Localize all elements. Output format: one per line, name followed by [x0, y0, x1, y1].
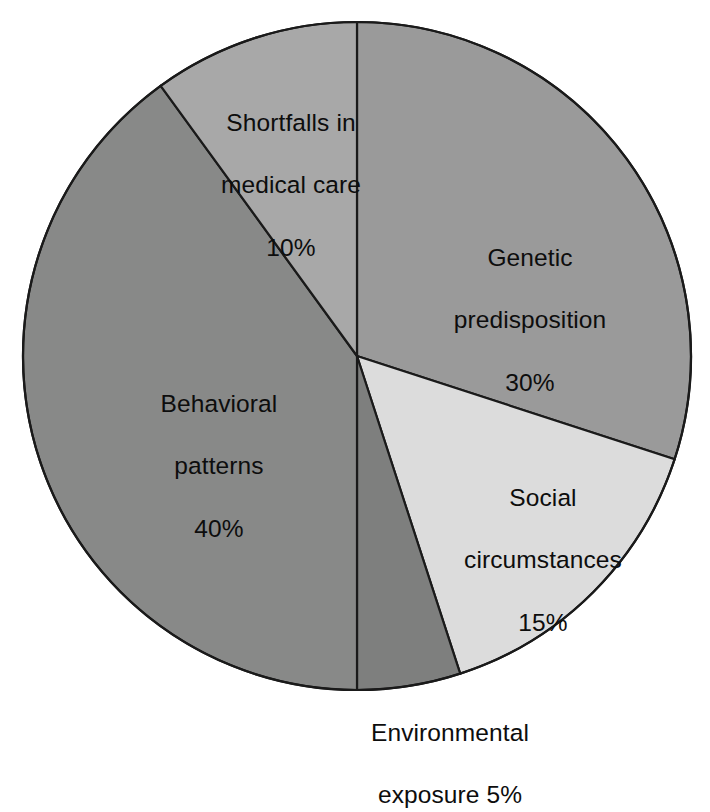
slice-label-line2: circumstances — [432, 544, 654, 575]
slice-value: 10% — [176, 232, 406, 263]
slice-value: 30% — [412, 367, 648, 398]
slice-label-line2: exposure 5% — [322, 779, 578, 810]
slice-label-environmental-exposure: Environmental exposure 5% — [322, 686, 578, 812]
slice-label-line1: Genetic — [412, 242, 648, 273]
slice-label-line2: patterns — [104, 450, 334, 481]
slice-label-genetic-predisposition: Genetic predisposition 30% — [412, 211, 648, 429]
slice-label-line1: Shortfalls in — [176, 107, 406, 138]
slice-label-line2: medical care — [176, 169, 406, 200]
slice-label-line2: predisposition — [412, 304, 648, 335]
slice-label-line1: Social — [432, 482, 654, 513]
slice-label-line1: Environmental — [322, 717, 578, 748]
slice-label-behavioral-patterns: Behavioral patterns 40% — [104, 357, 334, 575]
slice-value: 40% — [104, 513, 334, 544]
slice-label-social-circumstances: Social circumstances 15% — [432, 451, 654, 669]
slice-label-shortfalls-in-medical-care: Shortfalls in medical care 10% — [176, 76, 406, 294]
slice-label-line1: Behavioral — [104, 388, 334, 419]
slice-value: 15% — [432, 607, 654, 638]
